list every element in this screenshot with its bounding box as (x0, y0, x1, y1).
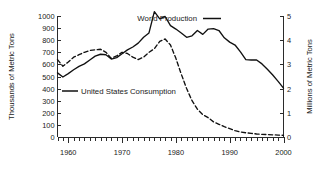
y-axis-left-tick-label: 600 (42, 60, 54, 69)
y-axis-right-tick-label: 5 (287, 12, 291, 21)
x-axis-tick-label: 1980 (168, 148, 184, 157)
legend-label-us-consumption: United States Consumption (81, 87, 176, 96)
y-axis-left-tick-label: 700 (42, 48, 54, 57)
y-axis-left-tick-label: 100 (42, 121, 54, 130)
y-axis-left-tick-label: 300 (42, 97, 54, 106)
y-axis-right-tick-label: 3 (287, 60, 291, 69)
y-axis-right-tick-label: 1 (287, 109, 291, 118)
y-axis-left-title: Thousands of Metric Tons (7, 33, 16, 120)
legend-label-world-production: World Production (137, 14, 197, 23)
y-axis-left-tick-label: 500 (42, 73, 54, 82)
y-axis-left-tick-label: 0 (50, 133, 54, 142)
y-axis-left-tick-label: 200 (42, 109, 54, 118)
y-axis-right-title: Millions of Metric Tons (305, 39, 314, 114)
series-group (58, 12, 284, 136)
y-axis-left-tick-label: 900 (42, 24, 54, 33)
y-axis-right-tick-label: 0 (287, 133, 291, 142)
axes-group: 0100200300400500600700800900100001234519… (7, 12, 315, 157)
y-axis-right-tick-label: 4 (287, 36, 291, 45)
x-axis-tick-label: 1970 (114, 148, 130, 157)
line-chart: 0100200300400500600700800900100001234519… (0, 0, 324, 173)
x-axis-tick-label: 2000 (275, 148, 291, 157)
x-axis-tick-label: 1960 (60, 148, 76, 157)
y-axis-left-tick-label: 1000 (38, 12, 54, 21)
legend: World ProductionUnited States Consumptio… (62, 14, 221, 96)
chart-container: 0100200300400500600700800900100001234519… (0, 0, 324, 173)
x-axis-tick-label: 1990 (221, 148, 237, 157)
y-axis-right-tick-label: 2 (287, 85, 291, 94)
y-axis-left-tick-label: 800 (42, 36, 54, 45)
y-axis-left-tick-label: 400 (42, 85, 54, 94)
